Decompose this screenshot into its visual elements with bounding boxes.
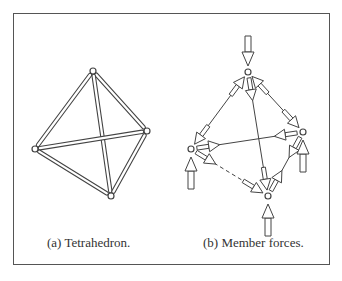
force-arrow-right-end-of-top xyxy=(282,109,299,127)
force-arrow-left-end-of-bottom xyxy=(195,150,216,164)
member-top-left xyxy=(38,75,90,145)
force-arrow-bottom-end-of-right xyxy=(269,171,282,192)
force-arrow-top-end-of-left xyxy=(229,77,244,97)
force-arrow-bottom-end-of-top xyxy=(260,167,271,190)
member-left-bottom xyxy=(39,152,106,194)
force-node-left xyxy=(188,146,194,152)
force-arrow-left-end-of-right xyxy=(197,141,220,152)
node-right xyxy=(144,128,150,134)
member-top-right xyxy=(96,75,143,128)
force-node-top xyxy=(245,69,251,75)
node-bottom xyxy=(108,193,114,199)
caption-tetrahedron: (a) Tetrahedron. xyxy=(47,235,130,251)
force-arrow-bottom-end-of-left xyxy=(242,179,263,193)
external-load-left xyxy=(185,157,197,189)
node-top xyxy=(90,68,96,74)
external-load-bottom xyxy=(262,204,274,236)
force-node-right xyxy=(300,129,306,135)
member-left-right xyxy=(40,132,142,148)
caption-member-forces: (b) Member forces. xyxy=(203,235,304,251)
external-load-top xyxy=(242,36,254,66)
member-forces-diagram xyxy=(185,36,309,236)
force-node-bottom xyxy=(265,193,271,199)
force-arrow-right-end-of-left xyxy=(274,129,297,140)
member-right-bottom xyxy=(113,135,144,191)
node-left xyxy=(32,146,38,152)
member-top-bottom xyxy=(94,76,111,191)
tetrahedron-diagram xyxy=(32,68,150,199)
